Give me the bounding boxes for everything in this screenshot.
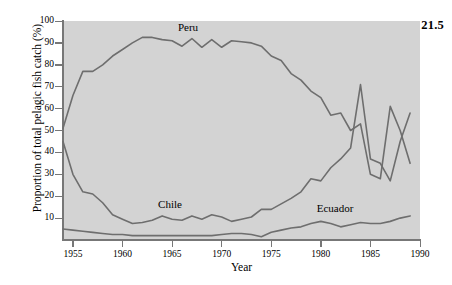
figure-number: 21.5: [421, 18, 444, 33]
x-axis-title: Year: [63, 261, 420, 273]
x-tick-mark: [370, 240, 371, 247]
x-tick-label: 1960: [103, 249, 143, 259]
x-axis-line: [62, 239, 421, 241]
x-tick-mark: [72, 240, 73, 247]
x-tick-mark: [172, 240, 173, 247]
x-tick-mark: [271, 240, 272, 247]
y-axis-line: [62, 20, 64, 241]
x-tick-label: 1965: [152, 249, 192, 259]
figure-root: 21.5 102030405060708090100 1955196019651…: [0, 0, 452, 285]
y-axis-title: Proportion of total pelagic fish catch (…: [31, 3, 43, 233]
x-tick-label: 1975: [251, 249, 291, 259]
series-label-chile: Chile: [158, 199, 182, 210]
x-tick-mark: [320, 240, 321, 247]
x-tick-mark: [122, 240, 123, 247]
x-tick-label: 1990: [400, 249, 440, 259]
plot-area: [63, 21, 420, 240]
x-tick-label: 1970: [202, 249, 242, 259]
x-tick-label: 1955: [53, 249, 93, 259]
y-axis-title-host: Proportion of total pelagic fish catch (…: [14, 0, 34, 260]
series-label-peru: Peru: [178, 22, 198, 33]
series-label-ecuador: Ecuador: [317, 203, 354, 214]
x-tick-label: 1980: [301, 249, 341, 259]
x-tick-mark: [221, 240, 222, 247]
x-tick-label: 1985: [350, 249, 390, 259]
x-tick-mark: [420, 240, 421, 247]
